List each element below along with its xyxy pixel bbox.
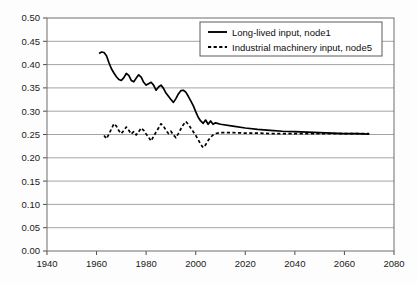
x-tick-label: 1980 xyxy=(136,258,157,269)
y-tick-label: 0.50 xyxy=(22,12,41,23)
x-tick-label: 1960 xyxy=(86,258,107,269)
y-tick-label: 0.00 xyxy=(22,245,41,256)
y-tick-label: 0.40 xyxy=(22,59,41,70)
x-tick-label: 2020 xyxy=(235,258,256,269)
y-tick-label: 0.20 xyxy=(22,152,41,163)
y-tick-label: 0.05 xyxy=(22,222,41,233)
x-tick-label: 2080 xyxy=(383,258,404,269)
y-axis-ticks: 0.000.050.100.150.200.250.300.350.400.45… xyxy=(22,12,48,256)
y-tick-label: 0.15 xyxy=(22,176,41,187)
x-tick-label: 2060 xyxy=(334,258,355,269)
y-tick-label: 0.45 xyxy=(22,36,41,47)
legend-label-2: Industrial machinery input, node5 xyxy=(232,42,372,53)
chart-legend: Long-lived input, node1Industrial machin… xyxy=(200,22,382,56)
chart-container: 0.000.050.100.150.200.250.300.350.400.45… xyxy=(0,0,417,284)
y-tick-label: 0.35 xyxy=(22,82,41,93)
line-chart: 0.000.050.100.150.200.250.300.350.400.45… xyxy=(0,0,417,284)
x-tick-label: 2040 xyxy=(284,258,305,269)
legend-label-1: Long-lived input, node1 xyxy=(232,27,331,38)
x-tick-label: 1940 xyxy=(36,258,57,269)
x-tick-label: 2000 xyxy=(185,258,206,269)
y-tick-label: 0.30 xyxy=(22,106,41,117)
y-tick-label: 0.10 xyxy=(22,199,41,210)
y-tick-label: 0.25 xyxy=(22,129,41,140)
x-axis-ticks: 19401960198020002020204020602080 xyxy=(36,251,404,269)
